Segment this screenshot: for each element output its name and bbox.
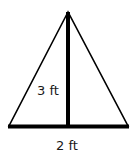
height-label: 3 ft [37, 83, 59, 98]
triangle-diagram: 3 ft 2 ft [0, 0, 134, 153]
base-label: 2 ft [56, 138, 78, 153]
